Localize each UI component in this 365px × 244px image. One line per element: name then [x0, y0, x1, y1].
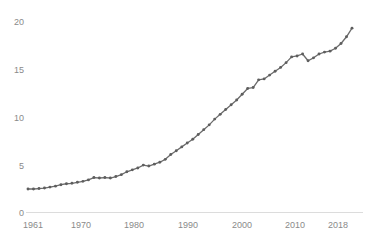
data-point	[246, 87, 249, 90]
data-point	[76, 181, 79, 184]
data-point	[268, 74, 271, 77]
data-point	[60, 183, 63, 186]
y-tick-label-0: 0	[2, 208, 24, 218]
line-chart-plot	[0, 0, 365, 244]
data-point	[158, 161, 161, 164]
data-point	[142, 164, 145, 167]
data-point	[219, 113, 222, 116]
data-point	[120, 173, 123, 176]
data-point	[340, 42, 343, 45]
data-series-line	[28, 28, 352, 189]
data-point	[136, 167, 139, 170]
data-point	[213, 118, 216, 121]
data-point	[301, 53, 304, 56]
data-point	[153, 163, 156, 166]
data-point	[235, 99, 238, 102]
x-tick-label-1980: 1980	[114, 220, 154, 230]
data-point	[323, 51, 326, 54]
data-point	[27, 188, 30, 191]
data-point	[131, 168, 134, 171]
y-tick-label-5: 5	[2, 161, 24, 171]
data-point	[32, 188, 35, 191]
data-point	[202, 128, 205, 131]
data-point	[274, 70, 277, 73]
data-point	[257, 78, 260, 81]
data-point	[81, 180, 84, 183]
data-point	[191, 138, 194, 141]
data-point	[285, 61, 288, 64]
data-point	[296, 54, 299, 57]
data-point	[180, 145, 183, 148]
x-tick-label-2010: 2010	[275, 220, 315, 230]
data-point	[70, 182, 73, 185]
data-point	[175, 149, 178, 152]
data-point	[92, 176, 95, 179]
chart-container: 20 15 10 5 0 1961 1970 1980 1990 2000 20…	[0, 0, 365, 244]
data-point	[351, 27, 354, 30]
y-tick-label-10: 10	[2, 113, 24, 123]
data-point	[109, 177, 112, 180]
data-point	[197, 133, 200, 136]
data-point	[334, 47, 337, 50]
data-point	[208, 123, 211, 126]
data-point	[279, 66, 282, 69]
data-point	[98, 177, 101, 180]
data-point	[164, 158, 167, 161]
data-point	[230, 103, 233, 106]
y-tick-label-15: 15	[2, 65, 24, 75]
data-point	[114, 175, 117, 178]
data-point	[318, 53, 321, 56]
data-point	[307, 59, 310, 62]
data-point	[87, 178, 90, 181]
data-point	[38, 187, 41, 190]
data-point	[147, 165, 150, 168]
x-tick-label-1970: 1970	[61, 220, 101, 230]
x-tick-label-2018: 2018	[318, 220, 358, 230]
data-point	[54, 185, 57, 188]
data-point	[312, 56, 315, 59]
data-point	[65, 182, 68, 185]
x-tick-label-1990: 1990	[168, 220, 208, 230]
data-point	[103, 176, 106, 179]
data-point	[263, 77, 266, 80]
data-point	[345, 35, 348, 38]
data-point	[329, 50, 332, 53]
data-point	[125, 170, 128, 173]
data-series-markers	[27, 27, 354, 191]
data-point	[169, 153, 172, 156]
y-tick-label-20: 20	[2, 17, 24, 27]
data-point	[186, 142, 189, 145]
data-point	[49, 186, 52, 189]
data-point	[224, 108, 227, 111]
x-tick-label-2000: 2000	[222, 220, 262, 230]
data-point	[290, 55, 293, 58]
data-point	[241, 93, 244, 96]
x-tick-label-1961: 1961	[13, 220, 53, 230]
data-point	[252, 86, 255, 89]
data-point	[43, 187, 46, 190]
